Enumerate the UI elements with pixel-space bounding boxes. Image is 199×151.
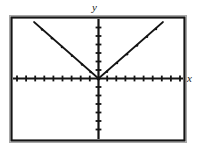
x-axis-label: x: [187, 73, 192, 84]
curve-vertex-point: [97, 77, 101, 81]
coordinate-plane: [0, 0, 199, 151]
y-axis-label: y: [92, 2, 97, 13]
graph-figure: y x: [0, 0, 199, 151]
